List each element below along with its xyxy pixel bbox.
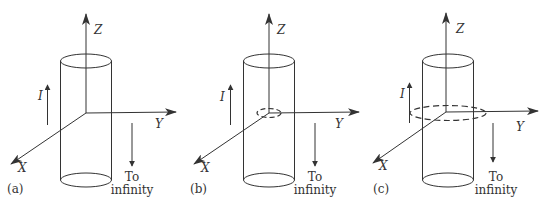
z-axis-label: Z — [93, 23, 103, 37]
x-axis-arrow — [11, 113, 86, 164]
current-label: I — [219, 90, 225, 104]
current-label: I — [37, 89, 43, 103]
panel-a: Z Y X I To infinity (a) — [7, 14, 176, 197]
cylinder-bottom-ellipse — [61, 173, 112, 187]
return-text-infinity: infinity — [294, 183, 337, 197]
z-axis-label: Z — [455, 22, 465, 36]
return-text-to: To — [489, 170, 503, 184]
dashed-loop-large — [410, 106, 486, 121]
panel-label: (b) — [190, 182, 207, 196]
x-axis-arrow — [194, 113, 269, 164]
cylinder-bottom-ellipse — [423, 173, 474, 187]
return-text-infinity: infinity — [111, 183, 154, 197]
y-axis-arrow — [446, 111, 538, 112]
return-text-infinity: infinity — [475, 183, 518, 197]
y-axis-label: Y — [155, 117, 164, 131]
x-axis-label: X — [17, 161, 27, 175]
panel-label: (a) — [7, 182, 24, 196]
y-axis-label: Y — [335, 117, 344, 131]
y-axis-arrow — [269, 112, 359, 113]
z-axis-label: Z — [276, 23, 286, 37]
return-text-to: To — [125, 170, 139, 184]
panel-c: Z Y X I To infinity (c) — [373, 13, 538, 197]
current-label: I — [399, 87, 405, 101]
return-text-to: To — [308, 170, 322, 184]
y-axis-label: Y — [516, 120, 525, 134]
y-axis-arrow — [86, 112, 176, 113]
cylinder-bottom-ellipse — [244, 173, 295, 187]
panel-b: Z Y X I To infinity (b) — [190, 14, 359, 197]
x-axis-label: X — [200, 161, 210, 175]
x-axis-label: X — [378, 159, 388, 173]
figure-canvas: Z Y X I To infinity (a) Z Y X I To infin… — [0, 0, 548, 207]
cylinder-top-ellipse — [423, 54, 474, 68]
panel-label: (c) — [373, 182, 389, 196]
